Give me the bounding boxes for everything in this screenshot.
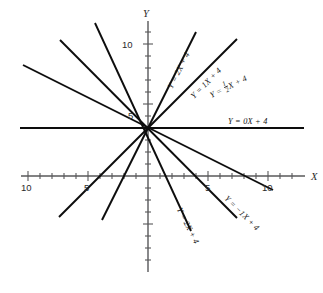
x-tick-label-5: 5 — [205, 182, 210, 193]
x-tick-label-neg10: 10 — [21, 182, 32, 193]
x-tick-label-neg5: 5 — [84, 182, 89, 193]
x-tick-label-10: 10 — [262, 182, 273, 193]
y-tick-label-5: 5 — [128, 110, 133, 121]
x-axis-label: X — [310, 171, 318, 182]
line-slope-2 — [95, 23, 191, 231]
plot-canvas: 10 5 5 10 5 10 X Y — [0, 0, 323, 293]
y-axis-label: Y — [143, 8, 150, 19]
linear-equations-graph-figure: 10 5 5 10 5 10 X Y Y = 2X + 4 Y = 1X + 4… — [0, 0, 323, 293]
y-tick-label-10: 10 — [122, 39, 133, 50]
equation-label-slope-0: Y = 0X + 4 — [228, 117, 267, 126]
